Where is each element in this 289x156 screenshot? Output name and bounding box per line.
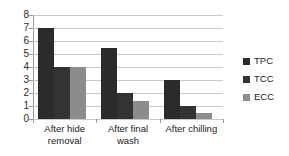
legend-swatch-icon xyxy=(243,94,250,101)
bar-group xyxy=(164,15,212,119)
y-axis-tick xyxy=(29,93,33,94)
legend-item-ecc[interactable]: ECC xyxy=(243,88,289,106)
bar-tcc-3 xyxy=(180,106,196,119)
x-axis-label-line1: After final xyxy=(96,123,159,135)
chart-legend: TPCTCCECC xyxy=(243,52,289,106)
y-axis-tick-label: 6 xyxy=(3,36,29,46)
bar-group xyxy=(101,15,149,119)
x-axis-label-line2: wash xyxy=(96,135,159,147)
x-axis-label-line1: After hide xyxy=(33,123,96,135)
y-axis-tick-label: 8 xyxy=(3,10,29,20)
y-axis-tick-label: 4 xyxy=(3,62,29,72)
bar-tcc-2 xyxy=(117,93,133,119)
bar-ecc-2 xyxy=(133,101,149,119)
x-axis-label-line1: After chilling xyxy=(160,123,223,135)
bar-chart: 012345678 After hideremovalAfter finalwa… xyxy=(0,0,289,156)
y-axis-tick-label: 7 xyxy=(3,23,29,33)
bar-tpc-2 xyxy=(101,48,117,120)
x-axis-label-1: After hideremoval xyxy=(33,123,96,147)
y-axis-tick xyxy=(29,28,33,29)
legend-swatch-icon xyxy=(243,76,250,83)
y-axis-tick-label: 3 xyxy=(3,75,29,85)
legend-item-tpc[interactable]: TPC xyxy=(243,52,289,70)
bar-tpc-3 xyxy=(164,80,180,119)
x-axis-label-2: After finalwash xyxy=(96,123,159,147)
bar-tpc-1 xyxy=(38,28,54,119)
legend-swatch-icon xyxy=(243,58,250,65)
legend-label: TPC xyxy=(254,56,273,66)
y-axis-tick-label: 5 xyxy=(3,49,29,59)
y-axis-tick xyxy=(29,106,33,107)
x-axis-tick xyxy=(96,119,97,123)
y-axis-tick-label: 0 xyxy=(3,114,29,124)
bar-ecc-1 xyxy=(70,67,86,119)
plot-area xyxy=(33,15,223,119)
x-axis-category-labels: After hideremovalAfter finalwashAfter ch… xyxy=(33,123,223,156)
y-axis-tick-label: 1 xyxy=(3,101,29,111)
legend-label: TCC xyxy=(254,74,274,84)
y-axis-tick-label: 2 xyxy=(3,88,29,98)
y-axis-labels: 012345678 xyxy=(0,15,29,120)
bar-group xyxy=(38,15,86,119)
x-axis-tick xyxy=(160,119,161,123)
legend-item-tcc[interactable]: TCC xyxy=(243,70,289,88)
x-axis-label-3: After chilling xyxy=(160,123,223,135)
y-axis-tick xyxy=(29,41,33,42)
y-axis-tick xyxy=(29,80,33,81)
bar-tcc-1 xyxy=(54,67,70,119)
y-axis-tick xyxy=(29,15,33,16)
y-axis-tick xyxy=(29,119,33,120)
x-axis-label-line2: removal xyxy=(33,135,96,147)
y-axis-tick xyxy=(29,67,33,68)
y-axis-tick xyxy=(29,54,33,55)
legend-label: ECC xyxy=(254,92,274,102)
x-axis-tick xyxy=(33,119,34,123)
bar-ecc-3 xyxy=(196,113,212,119)
x-axis-tick xyxy=(223,119,224,123)
gridline xyxy=(33,119,223,120)
